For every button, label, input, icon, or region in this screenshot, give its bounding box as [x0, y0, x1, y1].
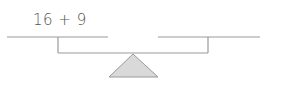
- balance-scale: [0, 0, 286, 96]
- fulcrum-triangle: [109, 54, 158, 77]
